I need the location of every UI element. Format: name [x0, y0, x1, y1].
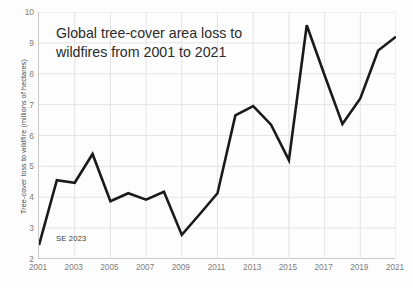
- chart-figure: 2345678910 Tree-cover loss to wildfire (…: [0, 0, 413, 288]
- y-axis-tick-6: 6: [29, 131, 34, 141]
- x-axis-tick-2019: 2019: [350, 263, 368, 272]
- y-axis-tick-7: 7: [29, 100, 34, 110]
- y-axis-tick-8: 8: [29, 69, 34, 79]
- x-axis-tick-2015: 2015: [279, 263, 297, 272]
- x-axis-tick-2005: 2005: [100, 263, 118, 272]
- x-axis-tick-2011: 2011: [208, 263, 226, 272]
- y-axis-tick-5: 5: [29, 161, 34, 171]
- y-axis-tick-9: 9: [29, 38, 34, 48]
- source-annotation: SE 2023: [56, 234, 87, 243]
- chart-title: Global tree-cover area loss to wildfires…: [56, 24, 306, 61]
- x-axis-tick-2001: 2001: [29, 263, 47, 272]
- y-axis-tick-10: 10: [25, 7, 34, 17]
- x-axis-tick-labels: 2001200320052007200920112013201520172019…: [0, 263, 413, 283]
- y-axis-tick-4: 4: [29, 192, 34, 202]
- x-axis-tick-2013: 2013: [243, 263, 261, 272]
- chart-title-line-2: wildfires from 2001 to 2021: [56, 44, 226, 60]
- chart-title-line-1: Global tree-cover area loss to: [56, 25, 242, 41]
- y-axis-tick-3: 3: [29, 223, 34, 233]
- y-axis-title: Tree-cover loss to wildfire (millions of…: [19, 22, 28, 252]
- x-axis-tick-2021: 2021: [386, 263, 404, 272]
- x-axis-tick-2017: 2017: [314, 263, 332, 272]
- x-axis-tick-2003: 2003: [65, 263, 83, 272]
- x-axis-tick-2009: 2009: [172, 263, 190, 272]
- x-axis-tick-2007: 2007: [136, 263, 154, 272]
